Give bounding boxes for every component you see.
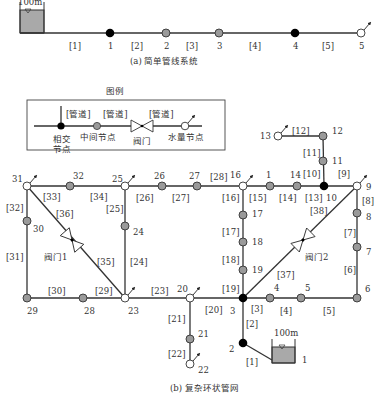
legend-junction-label-2: 节点: [53, 144, 71, 154]
simple-pipe-label: [3]: [186, 41, 198, 51]
legend-valve-icon: [131, 120, 153, 132]
simple-node-label: 1: [108, 41, 113, 51]
network-pipe-label: [1]: [246, 357, 258, 367]
complex-looped-network: 阀门1 阀门2 100m 1 3132252627161141091312111…: [6, 126, 374, 393]
network-node-label: 18: [252, 237, 263, 247]
network-node-label: 22: [198, 365, 209, 375]
legend: 图例 [管道] [管道] [管道] 相交 节点 中间节点 阀门 水量节点: [27, 86, 225, 154]
network-node-label: 11: [332, 156, 343, 166]
network-pipe-label: [2]: [246, 319, 258, 329]
intermediate-node-29[interactable]: [23, 294, 31, 302]
demand-arrow-icon: [128, 176, 134, 183]
simple-node-label: 4: [293, 41, 298, 51]
intermediate-node-12[interactable]: [319, 132, 327, 140]
network-pipe-label: [16]: [222, 193, 239, 203]
network-node-label: 6: [365, 284, 370, 294]
demand-arrow-icon: [364, 23, 370, 30]
network-node-label: 21: [198, 329, 209, 339]
network-node-label: 9: [366, 182, 371, 192]
valve-1-label: 阀门1: [44, 252, 67, 262]
network-pipe-label: [21]: [168, 314, 185, 324]
intermediate-node-14[interactable]: [293, 182, 301, 190]
network-node-label: 19: [252, 265, 263, 275]
demand-node-5[interactable]: [357, 29, 365, 37]
intermediate-node-2[interactable]: [162, 29, 170, 37]
intermediate-node-17[interactable]: [239, 211, 247, 219]
network-node-label: 5: [305, 283, 310, 293]
legend-intermediate-node-icon: [93, 122, 100, 129]
network-node-label: 25: [112, 174, 123, 184]
simple-node-label: 5: [359, 41, 364, 51]
network-pipe-label: [6]: [344, 265, 356, 275]
intermediate-node-28[interactable]: [79, 294, 87, 302]
network-pipe-label: [9]: [338, 169, 350, 179]
simple-node-label: 3: [217, 41, 222, 51]
junction-node-10[interactable]: [320, 182, 329, 191]
intermediate-node-3[interactable]: [215, 29, 223, 37]
network-pipe-label: [12]: [292, 126, 309, 136]
intermediate-node-24[interactable]: [121, 222, 129, 230]
demand-node-20[interactable]: [186, 294, 194, 302]
junction-node-4[interactable]: [291, 29, 300, 38]
network-pipe-label: [18]: [222, 255, 239, 265]
network-pipe-label: [31]: [6, 252, 23, 262]
caption-b: (b) 复杂环状管网: [170, 383, 239, 393]
intermediate-node-1[interactable]: [266, 182, 274, 190]
network-node-label: 2: [229, 344, 234, 354]
network-node-label: 31: [12, 174, 23, 184]
network-pipe-label: [3]: [251, 304, 263, 314]
intermediate-node-7[interactable]: [353, 243, 361, 251]
network-pipe-label: [20]: [205, 305, 222, 315]
network-node-label: 26: [154, 171, 165, 181]
legend-intermediate-label: 中间节点: [80, 132, 116, 142]
simple-node-label: 2: [164, 41, 169, 51]
network-pipe-label: [34]: [90, 192, 107, 202]
intermediate-node-8[interactable]: [353, 209, 361, 217]
legend-demand-arrow-icon: [188, 116, 194, 123]
intermediate-node-6[interactable]: [353, 294, 361, 302]
valve-1[interactable]: [60, 228, 84, 252]
simple-pipe-label: [2]: [131, 41, 143, 51]
network-node-label: 32: [73, 171, 84, 181]
demand-node-31[interactable]: [23, 182, 31, 190]
tank-head-label: 100m: [18, 0, 42, 7]
demand-node-23[interactable]: [121, 294, 129, 302]
intermediate-node-26[interactable]: [158, 182, 166, 190]
network-node-label: 14: [290, 170, 301, 180]
intermediate-node-27[interactable]: [193, 182, 201, 190]
simple-pipeline-system: 100m 12345[1][2][3][4][5] (a) 简单管线系统: [18, 0, 370, 66]
network-pipe-label: [17]: [222, 227, 239, 237]
network-pipe-label: [37]: [277, 270, 294, 280]
junction-node-1[interactable]: [106, 29, 115, 38]
intermediate-node-30[interactable]: [23, 217, 31, 225]
network-pipe-label: [28]: [210, 172, 227, 182]
demand-node-16[interactable]: [239, 182, 247, 190]
intermediate-node-11[interactable]: [319, 157, 327, 165]
junction-node-2[interactable]: [239, 339, 248, 348]
reservoir-tank-b: [272, 347, 295, 363]
network-node-label: 13: [260, 131, 271, 141]
legend-junction-label-1: 相交: [53, 134, 71, 144]
legend-pipe-label-3: [管道]: [149, 109, 174, 119]
demand-arrow-icon: [246, 176, 252, 183]
demand-node-13[interactable]: [274, 132, 282, 140]
network-node-label: 24: [133, 227, 144, 237]
intermediate-node-21[interactable]: [186, 335, 194, 343]
demand-node-9[interactable]: [353, 182, 361, 190]
demand-node-22[interactable]: [186, 360, 194, 368]
network-node-label: 1: [266, 170, 271, 180]
network-pipe-label: [7]: [344, 228, 356, 238]
legend-valve-label: 阀门: [133, 136, 151, 146]
intermediate-node-18[interactable]: [239, 238, 247, 246]
intermediate-node-4[interactable]: [266, 294, 274, 302]
intermediate-node-5[interactable]: [297, 294, 305, 302]
legend-demand-label: 水量节点: [168, 132, 204, 142]
network-node-label: 28: [84, 306, 95, 316]
junction-node-3[interactable]: [239, 294, 248, 303]
network-pipe-label: [8]: [362, 196, 374, 206]
network-pipe-label: [4]: [280, 306, 292, 316]
simple-pipe-label: [1]: [69, 41, 81, 51]
network-pipe-label: [25]: [106, 204, 123, 214]
intermediate-node-19[interactable]: [239, 266, 247, 274]
intermediate-node-32[interactable]: [66, 182, 74, 190]
